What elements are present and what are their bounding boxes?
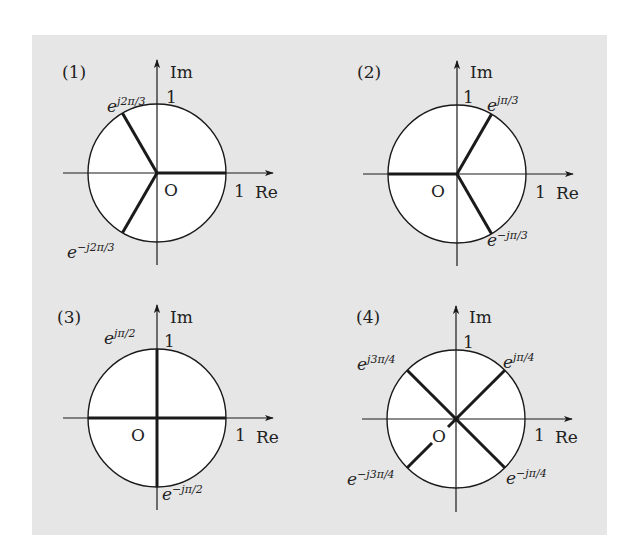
imaginary-unit-tick: 1 bbox=[164, 331, 175, 351]
imaginary-axis-label: Im bbox=[170, 307, 193, 327]
origin-label: O bbox=[164, 180, 178, 200]
real-axis-label: Re bbox=[555, 427, 578, 447]
real-unit-tick: 1 bbox=[535, 182, 546, 202]
diagram-label: (2) bbox=[357, 62, 381, 82]
real-axis-label: Re bbox=[556, 183, 579, 203]
origin-label: O bbox=[131, 425, 145, 445]
figure-stage: (1) Im 1 O 1 Re ej2π/3 e−j2π/3 (2) Im 1 … bbox=[0, 0, 632, 558]
origin-label: O bbox=[431, 181, 445, 201]
real-unit-tick: 1 bbox=[234, 181, 245, 201]
unit-circle-figure: (1) Im 1 O 1 Re ej2π/3 e−j2π/3 (2) Im 1 … bbox=[0, 0, 632, 558]
imaginary-unit-tick: 1 bbox=[463, 332, 474, 352]
real-unit-tick: 1 bbox=[235, 425, 246, 445]
origin-label: O bbox=[432, 426, 446, 446]
diagram-label: (3) bbox=[57, 307, 81, 327]
imaginary-unit-tick: 1 bbox=[463, 87, 474, 107]
real-unit-tick: 1 bbox=[534, 425, 545, 445]
imaginary-axis-label: Im bbox=[170, 62, 193, 82]
imaginary-axis-label: Im bbox=[470, 62, 493, 82]
diagram-label: (1) bbox=[62, 62, 86, 82]
diagram-label: (4) bbox=[356, 307, 380, 327]
imaginary-unit-tick: 1 bbox=[166, 87, 177, 107]
real-axis-label: Re bbox=[256, 427, 279, 447]
imaginary-axis-label: Im bbox=[469, 307, 492, 327]
real-axis-label: Re bbox=[255, 182, 278, 202]
